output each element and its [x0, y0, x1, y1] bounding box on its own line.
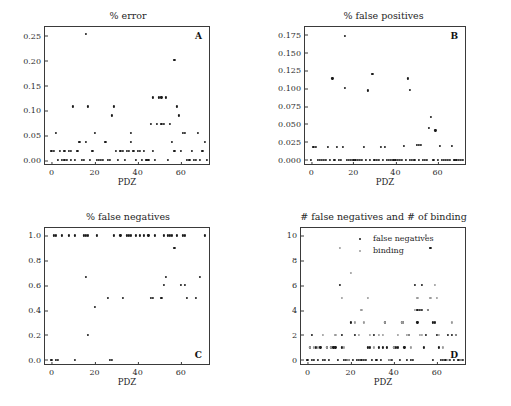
x-axis-label: PDZ — [45, 377, 209, 387]
panel-c: % false negatives0.00.20.40.60.81.002040… — [0, 205, 256, 406]
data-point — [325, 158, 327, 160]
data-point — [434, 321, 436, 323]
data-point — [451, 145, 453, 147]
data-point — [85, 33, 87, 35]
plot-area: 0.00.20.40.60.81.00204060PDZC — [44, 227, 210, 365]
legend-label: binding — [373, 246, 404, 255]
data-point — [128, 150, 130, 152]
data-point — [119, 234, 121, 236]
y-tick-label: 10 — [287, 231, 301, 240]
data-point — [329, 158, 331, 160]
data-point — [59, 150, 61, 152]
data-point — [430, 116, 432, 118]
x-tick-label: 20 — [89, 164, 99, 177]
data-point — [382, 158, 384, 160]
data-point — [180, 284, 182, 286]
data-point — [78, 141, 80, 143]
data-point — [373, 346, 375, 348]
data-point — [317, 359, 319, 361]
data-point — [61, 234, 63, 236]
data-point — [434, 284, 436, 286]
y-tick-label: 0.20 — [23, 56, 45, 65]
panel-letter: C — [195, 350, 202, 360]
data-point — [360, 309, 362, 311]
legend-item: binding — [353, 246, 434, 255]
data-point — [401, 321, 403, 323]
data-point — [87, 334, 89, 336]
data-point — [373, 334, 375, 336]
y-tick-label: 0.6 — [28, 281, 45, 290]
y-tick-label: 8 — [292, 256, 301, 265]
data-point — [152, 150, 154, 152]
data-point — [362, 321, 364, 323]
panel-title: % false negatives — [0, 211, 256, 222]
data-point — [70, 150, 72, 152]
data-point — [367, 297, 369, 299]
data-point — [57, 359, 59, 361]
data-point — [139, 234, 141, 236]
data-point — [409, 89, 411, 91]
data-point — [160, 297, 162, 299]
data-point — [418, 158, 420, 160]
y-tick-label: 0.05 — [23, 131, 45, 140]
data-point — [143, 150, 145, 152]
panel-letter: D — [450, 350, 458, 360]
data-point — [342, 146, 344, 148]
data-point — [341, 297, 343, 299]
x-axis-label: PDZ — [301, 377, 465, 387]
data-point — [173, 247, 175, 249]
x-axis-label: PDZ — [305, 177, 465, 187]
data-point — [85, 141, 87, 143]
data-point — [165, 96, 167, 98]
data-point — [369, 158, 371, 160]
data-point — [386, 346, 388, 348]
y-tick-label: 0.075 — [278, 102, 305, 111]
panel-b: % false positives0.0000.0250.0500.0750.1… — [256, 2, 511, 205]
panel-letter: B — [450, 31, 458, 41]
data-point — [412, 359, 414, 361]
data-point — [93, 306, 95, 308]
data-point — [432, 158, 434, 160]
y-tick-label: 4 — [292, 306, 301, 315]
data-point — [130, 141, 132, 143]
data-point — [339, 284, 341, 286]
data-point — [171, 234, 173, 236]
y-tick-label: 2 — [292, 330, 301, 339]
data-point — [134, 234, 136, 236]
data-point — [462, 158, 464, 160]
figure-canvas: % error0.000.050.100.150.200.250204060PD… — [0, 0, 511, 406]
data-point — [152, 297, 154, 299]
legend-marker-icon — [353, 234, 367, 243]
x-tick-label: 40 — [389, 364, 399, 377]
data-point — [74, 359, 76, 361]
plot-area: 0.0000.0250.0500.0750.1000.1250.1500.175… — [304, 26, 466, 165]
data-point — [152, 96, 154, 98]
x-tick-label: 20 — [345, 364, 355, 377]
data-point — [406, 359, 408, 361]
panel-d: # false negatives and # of binding024681… — [256, 205, 511, 406]
data-point — [147, 234, 149, 236]
data-point — [184, 284, 186, 286]
data-point — [311, 334, 313, 336]
y-tick-label: 0.25 — [23, 31, 45, 40]
data-point — [403, 145, 405, 147]
data-point — [340, 158, 342, 160]
y-tick-label: 0.15 — [23, 81, 45, 90]
data-point — [106, 297, 108, 299]
data-point — [378, 346, 380, 348]
data-point — [167, 159, 169, 161]
data-point — [365, 158, 367, 160]
data-point — [369, 334, 371, 336]
data-point — [165, 276, 167, 278]
data-point — [162, 234, 164, 236]
data-point — [141, 159, 143, 161]
data-point — [421, 284, 423, 286]
data-point — [349, 272, 351, 274]
data-point — [65, 159, 67, 161]
data-point — [188, 159, 190, 161]
y-tick-label: 0.100 — [278, 84, 305, 93]
data-point — [451, 334, 453, 336]
data-point — [162, 284, 164, 286]
data-point — [132, 150, 134, 152]
data-point — [427, 309, 429, 311]
